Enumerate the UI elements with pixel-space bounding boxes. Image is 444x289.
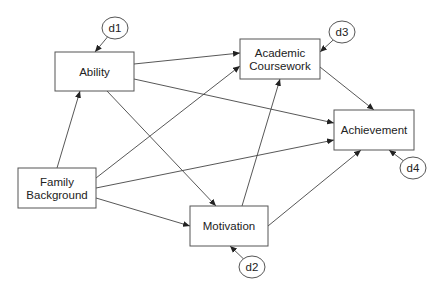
- edge-ability-to-achievement: [134, 79, 334, 123]
- edge-ability-to-academic-coursework: [134, 53, 240, 64]
- edge-d3-to-academic-coursework: [320, 40, 333, 52]
- edge-family-background-to-motivation: [96, 198, 190, 226]
- nodes-layer: AbilityAcademicCourseworkAchievementFami…: [18, 39, 414, 246]
- path-diagram: AbilityAcademicCourseworkAchievementFami…: [0, 0, 444, 289]
- disturbance-d4: d4: [400, 157, 426, 179]
- edge-ability-to-motivation: [107, 91, 216, 206]
- disturbance-d1: d1: [102, 17, 128, 39]
- edge-academic-coursework-to-achievement: [320, 67, 374, 110]
- edge-family-background-to-achievement: [96, 140, 334, 188]
- disturbance-label: d3: [336, 26, 349, 38]
- node-label: Background: [26, 189, 87, 201]
- node-ability: Ability: [55, 52, 134, 91]
- node-label: Ability: [79, 66, 110, 78]
- disturbance-d2: d2: [239, 256, 265, 278]
- node-label: Family: [40, 176, 74, 188]
- node-family-background: FamilyBackground: [18, 168, 96, 208]
- edge-motivation-to-achievement: [268, 150, 361, 226]
- edge-d1-to-ability: [95, 37, 108, 52]
- edge-d4-to-achievement: [389, 150, 403, 161]
- disturbance-label: d4: [407, 162, 420, 174]
- edge-family-background-to-ability: [57, 91, 80, 168]
- node-label: Coursework: [249, 60, 311, 72]
- disturbance-label: d1: [109, 22, 122, 34]
- node-label: Achievement: [341, 124, 408, 136]
- node-label: Motivation: [203, 220, 255, 232]
- node-label: Academic: [255, 47, 306, 59]
- node-academic-coursework: AcademicCoursework: [240, 39, 320, 79]
- node-achievement: Achievement: [334, 110, 414, 150]
- edge-d2-to-motivation: [230, 246, 243, 259]
- disturbance-label: d2: [246, 261, 259, 273]
- disturbance-d3: d3: [329, 21, 355, 43]
- edge-motivation-to-academic-coursework: [242, 79, 280, 206]
- node-motivation: Motivation: [190, 206, 268, 246]
